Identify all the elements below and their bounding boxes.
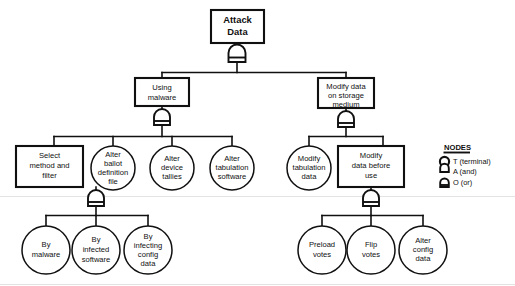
attack-data-label-line-0: Attack bbox=[223, 14, 252, 25]
modify-tabulation-label-line-2: data bbox=[302, 172, 318, 181]
or-gate-icon bbox=[440, 179, 449, 187]
using-malware-label-line-1: malware bbox=[148, 93, 177, 102]
modify-data-storage-label-line-0: Modify data bbox=[326, 82, 366, 91]
legend-entry-and-label: A (and) bbox=[453, 167, 477, 176]
alter-config-label-line-0: Alter bbox=[415, 236, 431, 245]
by-infected-label-line-2: software bbox=[82, 255, 111, 264]
flip-votes-label-line-0: Flip bbox=[365, 240, 377, 249]
by-infecting-label-line-3: data bbox=[141, 259, 157, 268]
preload-votes-label-line-0: Preload bbox=[309, 240, 335, 249]
alter-config-label-line-1: config bbox=[413, 245, 433, 254]
or-gate-modify-data-before-use bbox=[363, 190, 379, 206]
preload-votes-label-line-1: votes bbox=[313, 250, 331, 259]
alter-ballot-label-line-1: ballot bbox=[104, 159, 123, 168]
modify-before-use-label-line-2: use bbox=[365, 171, 377, 180]
alter-device-label-line-2: tallies bbox=[162, 172, 182, 181]
or-gate-body bbox=[338, 111, 354, 127]
node-by-malware[interactable]: By malware bbox=[22, 226, 70, 274]
node-select-method-filter[interactable]: Select method and filter bbox=[16, 146, 83, 187]
alter-tabulation-label-line-0: Alter bbox=[224, 154, 240, 163]
alter-tabulation-label-line-1: tabulation bbox=[216, 163, 249, 172]
by-malware-label-line-1: malware bbox=[32, 250, 61, 259]
or-gate-body bbox=[363, 190, 379, 206]
node-alter-device-tallies[interactable]: Alter device tallies bbox=[150, 146, 194, 190]
node-alter-ballot-definition-file[interactable]: Alter ballot definition file bbox=[91, 146, 135, 190]
node-modify-tabulation-data[interactable]: Modify tabulation data bbox=[287, 146, 331, 190]
and-gate-icon bbox=[440, 164, 449, 172]
attack-tree-canvas: Attack Data Using malware Modify data on… bbox=[0, 0, 515, 286]
alter-device-label-line-1: device bbox=[161, 163, 183, 172]
node-attack-data[interactable]: Attack Data bbox=[211, 10, 264, 43]
by-infecting-label-line-0: By bbox=[144, 232, 153, 241]
alter-ballot-label-line-0: Alter bbox=[105, 150, 121, 159]
alter-ballot-label-line-3: file bbox=[108, 177, 118, 186]
by-infecting-label-line-2: config bbox=[138, 250, 158, 259]
by-infecting-label-line-1: infecting bbox=[134, 241, 162, 250]
using-malware-label-line-0: Using bbox=[152, 83, 171, 92]
flip-votes-label-line-1: votes bbox=[362, 250, 380, 259]
or-gate-body bbox=[154, 109, 170, 125]
node-by-infected-software[interactable]: By infected software bbox=[72, 226, 120, 274]
modify-tabulation-label-line-1: tabulation bbox=[293, 163, 326, 172]
select-method-filter-label-line-0: Select bbox=[39, 151, 61, 160]
select-method-filter-label-line-1: method and bbox=[29, 161, 69, 170]
by-infected-label-line-1: infected bbox=[83, 245, 110, 254]
alter-tabulation-label-line-2: software bbox=[218, 172, 247, 181]
node-by-infecting-config-data[interactable]: By infecting config data bbox=[124, 226, 172, 274]
legend-entry-terminal-label: T (terminal) bbox=[453, 157, 491, 166]
alter-device-label-line-0: Alter bbox=[164, 154, 180, 163]
legend-heading: NODES bbox=[444, 143, 471, 152]
modify-before-use-label-line-0: Modify bbox=[360, 151, 383, 160]
node-alter-tabulation-software[interactable]: Alter tabulation software bbox=[210, 146, 254, 190]
alter-config-label-line-2: data bbox=[416, 254, 432, 263]
or-gate-using-malware bbox=[154, 109, 170, 125]
nodes-legend: NODES T (terminal) A (and) O (or) bbox=[440, 143, 491, 187]
modify-tabulation-label-line-0: Modify bbox=[298, 154, 321, 163]
node-flip-votes[interactable]: Flip votes bbox=[347, 226, 395, 274]
or-gate-body bbox=[88, 190, 104, 206]
modify-data-storage-label-line-1: on storage bbox=[328, 91, 364, 100]
by-infected-label-line-0: By bbox=[92, 235, 101, 244]
node-preload-votes[interactable]: Preload votes bbox=[298, 226, 346, 274]
select-method-filter-label-line-2: filter bbox=[42, 171, 57, 180]
legend-entry-or-label: O (or) bbox=[453, 178, 472, 187]
or-gate-modify-data-storage bbox=[338, 111, 354, 127]
alter-ballot-label-line-2: definition bbox=[98, 168, 128, 177]
by-malware-label-line-0: By bbox=[42, 240, 51, 249]
or-gate-select-method-filter bbox=[88, 190, 104, 206]
node-alter-config-data[interactable]: Alter config data bbox=[399, 226, 447, 274]
modify-before-use-label-line-1: data before bbox=[352, 161, 390, 170]
or-gate-attack-data bbox=[229, 45, 246, 63]
attack-tree-diagram: Attack Data Using malware Modify data on… bbox=[0, 0, 515, 286]
or-gate-body bbox=[229, 45, 246, 63]
node-modify-data-before-use[interactable]: Modify data before use bbox=[338, 146, 404, 187]
node-modify-data-storage[interactable]: Modify data on storage medium bbox=[318, 78, 374, 109]
node-using-malware[interactable]: Using malware bbox=[135, 78, 189, 106]
modify-data-storage-label-line-2: medium bbox=[332, 100, 359, 109]
attack-data-label-line-1: Data bbox=[227, 26, 248, 37]
